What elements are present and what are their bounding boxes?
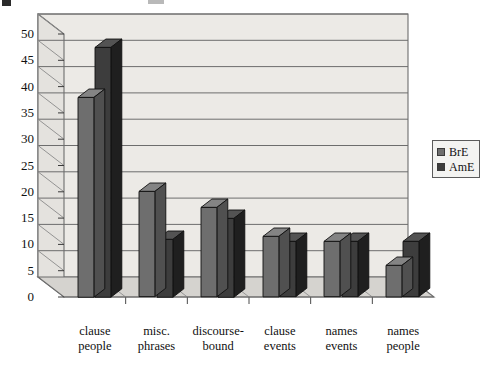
bar-chart-figure: 05101520253035404550 clausepeoplemisc.ph… <box>0 0 490 365</box>
bar-bre-3 <box>263 237 279 297</box>
bar-bre-5 <box>386 265 402 297</box>
bar-bre-2 <box>201 208 217 297</box>
bar-bre-0 <box>78 97 94 297</box>
y-axis-tick-labels: 05101520253035404550 <box>0 14 34 324</box>
legend-item-bre: BrE <box>437 144 474 159</box>
legend-item-ame: AmE <box>437 159 474 174</box>
scan-artifact-mark <box>2 0 11 6</box>
scan-artifact-mark-secondary <box>148 0 164 4</box>
y-axis-tick-label: 15 <box>4 211 34 224</box>
bars-layer <box>38 14 434 324</box>
chart-legend: BrE AmE <box>432 140 480 178</box>
y-axis-tick-label: 20 <box>4 185 34 198</box>
y-axis-tick-label: 30 <box>4 132 34 145</box>
legend-swatch-ame <box>437 163 445 171</box>
y-axis-tick-label: 50 <box>4 27 34 40</box>
legend-label-bre: BrE <box>449 146 468 158</box>
y-axis-tick-label: 0 <box>4 290 34 303</box>
legend-swatch-bre <box>437 148 445 156</box>
y-axis-tick-label: 45 <box>4 53 34 66</box>
y-axis-tick-label: 25 <box>4 159 34 172</box>
plot-area <box>38 14 434 324</box>
x-axis-category-label: namespeople <box>359 324 448 354</box>
legend-label-ame: AmE <box>449 161 474 173</box>
x-axis-category-label-line: people <box>359 339 448 354</box>
bar-bre-4 <box>324 242 340 297</box>
x-axis-category-labels: clausepeoplemisc.phrasesdiscourse-boundc… <box>38 324 434 364</box>
bar-bre-1 <box>139 192 155 297</box>
x-axis-category-label-line: names <box>359 324 448 339</box>
y-axis-tick-label: 40 <box>4 80 34 93</box>
y-axis-tick-label: 10 <box>4 237 34 250</box>
y-axis-tick-label: 5 <box>4 264 34 277</box>
y-axis-tick-label: 35 <box>4 106 34 119</box>
